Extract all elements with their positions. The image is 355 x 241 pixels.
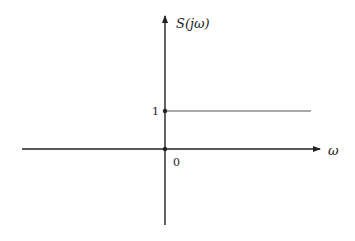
point-at-one xyxy=(163,109,167,113)
y-axis-label: S(jω) xyxy=(176,16,210,31)
x-axis-label: ω xyxy=(328,143,339,158)
origin-point xyxy=(163,147,167,151)
origin-label: 0 xyxy=(173,156,180,169)
tick-label-one: 1 xyxy=(152,105,159,118)
step-diagram: S(jω) ω 1 0 xyxy=(0,0,355,241)
